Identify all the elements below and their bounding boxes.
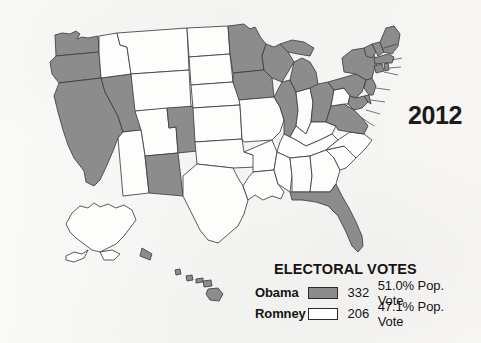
legend-electoral-votes: 206 [347,306,377,321]
state-hi-molokai [196,278,203,283]
state-mn [228,24,266,73]
state-sd [189,54,233,85]
state-hi-oahu [186,275,193,281]
legend-electoral-votes: 332 [347,285,377,300]
legend-row-romney: Romney 206 47.1% Pop. Vote [255,304,465,323]
legend-candidate-name: Romney [255,306,308,321]
state-hi-bigisland [206,288,223,301]
legend-candidate-name: Obama [255,285,308,300]
state-or [50,52,101,83]
state-al [290,156,312,192]
state-ak-island-1 [140,248,152,260]
state-nj [364,78,376,95]
state-me [380,26,400,54]
state-ma [374,54,394,64]
leader-line-ri [389,67,401,68]
state-mo [239,97,284,142]
state-ia [233,70,274,100]
state-ak-peninsula [100,250,120,260]
leader-line-ct [384,72,398,75]
legend-title: ELECTORAL VOTES [274,261,465,277]
legend-swatch-obama [308,287,338,299]
legend: ELECTORAL VOTES Obama 332 51.0% Pop. Vot… [255,261,465,325]
year-label: 2012 [408,101,462,130]
leader-line-md [366,110,380,114]
state-fl [290,184,363,252]
legend-swatch-romney [308,308,338,320]
state-nm [145,153,183,196]
state-ct [374,64,384,73]
state-ak-aleutians [66,250,88,262]
state-nd [187,26,230,57]
election-map-page: .st { stroke: #3d3d3d; stroke-width: 0.8… [0,0,481,343]
map-states-layer [50,24,402,301]
state-ne [191,82,240,108]
state-ks [193,105,242,142]
state-hi-maui [203,280,212,287]
state-ak [66,203,136,252]
state-ri [384,63,389,71]
state-hi-kauai [175,269,181,275]
state-wy [131,70,191,111]
state-tx [183,164,248,243]
leader-line-de [371,100,385,102]
leader-line-nj [376,88,390,90]
legend-popular-vote: 47.1% Pop. Vote [378,299,465,329]
